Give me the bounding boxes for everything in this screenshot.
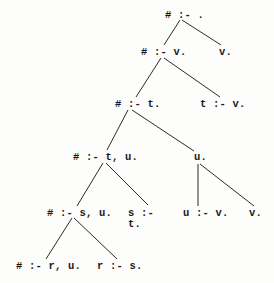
edge-n1-n4	[164, 58, 220, 97]
node-goal-v: # :- v.	[141, 47, 187, 58]
node-goal-s-u: # :- s, u.	[47, 208, 112, 219]
edge-n3-n6	[132, 110, 194, 151]
edge-n3-n5	[107, 110, 128, 150]
node-root: # :- .	[165, 10, 204, 21]
node-goal-t: # :- t.	[115, 99, 161, 110]
node-goal-u: u.	[194, 152, 207, 163]
edge-n0-n1	[164, 20, 180, 45]
edge-n7-n12	[74, 218, 117, 259]
node-fact-v-2: v.	[249, 208, 262, 219]
node-rule-t-v: t :- v.	[200, 99, 246, 110]
node-rule-r-s: r :- s.	[97, 261, 143, 272]
edge-n7-n11	[46, 218, 72, 259]
node-rule-u-v: u :- v.	[183, 208, 229, 219]
node-goal-t-u: # :- t, u.	[73, 152, 138, 163]
edge-n0-n2	[182, 20, 221, 45]
tree-edges	[0, 0, 274, 283]
edge-n6-n10	[200, 164, 254, 206]
node-rule-s-t: s :- t.	[128, 208, 154, 230]
edge-n1-n3	[136, 58, 161, 97]
edge-n5-n8	[106, 163, 148, 205]
node-fact-v: v.	[219, 47, 232, 58]
node-goal-r-u: # :- r, u.	[16, 261, 81, 272]
edge-n5-n7	[77, 163, 103, 206]
